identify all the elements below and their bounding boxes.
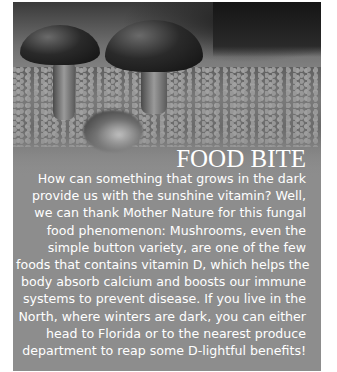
body-line: provide us with the sunshine vitamin? We… bbox=[16, 187, 306, 204]
photo-background-shadow bbox=[213, 2, 321, 57]
body-line: body absorb calcium and boosts our immun… bbox=[16, 273, 306, 290]
body-line: systems to prevent disease. If you live … bbox=[16, 290, 306, 307]
mushroom-cap-right bbox=[105, 20, 203, 72]
mushroom-cap-left bbox=[20, 25, 100, 65]
article-title: FOOD BITE bbox=[176, 146, 306, 172]
mushroom-stem-left bbox=[53, 60, 75, 120]
body-line: we can thank Mother Nature for this fung… bbox=[16, 204, 306, 221]
body-line: North, where winters are dark, you can e… bbox=[16, 308, 306, 325]
article-body: How can something that grows in the dark… bbox=[16, 170, 306, 359]
body-line: simple button variety, are one of the fe… bbox=[16, 239, 306, 256]
body-line: food phenomenon: Mushrooms, even the bbox=[16, 222, 306, 239]
body-line: foods that contains vitamin D, which hel… bbox=[16, 256, 306, 273]
body-line: department to reap some D-lightful benef… bbox=[16, 342, 306, 359]
food-bite-card: FOOD BITE How can something that grows i… bbox=[13, 2, 321, 371]
body-line: head to Florida or to the nearest produc… bbox=[16, 325, 306, 342]
body-line: How can something that grows in the dark bbox=[16, 170, 306, 187]
